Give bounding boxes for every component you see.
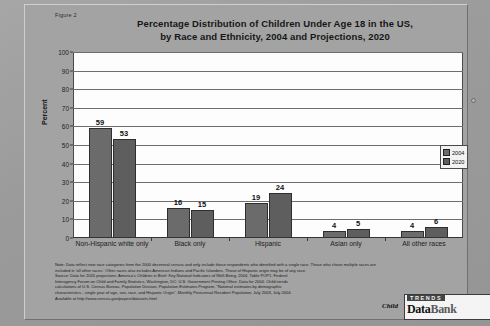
legend-item-2020: 2020: [443, 157, 464, 166]
plot-area-wrapper: 0102030405060708090100 5953161519244546 …: [73, 52, 463, 238]
y-axis-tick-label: 20: [62, 197, 69, 204]
y-axis-tick-label: 40: [62, 160, 69, 167]
y-axis-tick-label: 10: [62, 216, 69, 223]
y-axis-tick-label: 100: [58, 49, 69, 56]
logo-trends-text: TRENDS: [407, 295, 445, 301]
bar-2004: 16: [167, 208, 190, 238]
logo-databank-text: DataBank: [407, 302, 457, 317]
y-axis-tick-label: 80: [62, 86, 69, 93]
bar-groups: 5953161519244546: [73, 52, 463, 238]
y-axis-tick-label: 90: [62, 67, 69, 74]
bar-group: 1615: [151, 52, 229, 238]
bar-2020: 24: [269, 193, 292, 238]
chart-legend: 2004 2020: [440, 145, 468, 169]
x-axis-tick-mark: [307, 238, 308, 241]
y-axis-tick-label: 50: [62, 142, 69, 149]
legend-item-2004: 2004: [443, 148, 464, 157]
chart-title-line-1: Percentage Distribution of Children Unde…: [85, 18, 465, 31]
y-axis-title: Percent: [41, 99, 48, 125]
bar-value-label: 59: [96, 118, 104, 127]
y-axis-tick-label: 30: [62, 179, 69, 186]
bar-value-label: 16: [174, 198, 182, 207]
x-axis-tick-mark: [229, 238, 230, 241]
bar-value-label: 53: [120, 129, 128, 138]
bar-value-label: 4: [410, 221, 414, 230]
x-axis-line: [73, 237, 463, 238]
scanned-page: Figure 2 Percentage Distribution of Chil…: [0, 0, 490, 326]
y-axis-tick-label: 60: [62, 123, 69, 130]
chart-title: Percentage Distribution of Children Unde…: [85, 18, 465, 43]
logo-data-text: Data: [407, 302, 430, 316]
legend-label-2004: 2004: [452, 150, 464, 156]
figure-frame: Figure 2 Percentage Distribution of Chil…: [24, 4, 468, 320]
bar-value-label: 4: [332, 221, 336, 230]
bar-value-label: 24: [276, 183, 284, 192]
bar-2020: 15: [191, 210, 214, 238]
x-axis-tick-mark: [151, 238, 152, 241]
x-axis-label: All other races: [376, 240, 472, 248]
figure-label: Figure 2: [55, 12, 77, 18]
bar-2020: 53: [113, 139, 136, 238]
legend-label-2020: 2020: [452, 159, 464, 165]
logo-bank-text: Bank: [430, 302, 456, 316]
logo-child-text: Child: [382, 302, 398, 310]
bar-group: 1924: [229, 52, 307, 238]
legend-swatch-2020-icon: [443, 158, 450, 165]
bar-value-label: 5: [356, 219, 360, 228]
bar-value-label: 19: [252, 193, 260, 202]
bar-2004: 19: [245, 203, 268, 238]
x-axis-tick-mark: [385, 238, 386, 241]
legend-swatch-2004-icon: [443, 149, 450, 156]
bar-value-label: 15: [198, 200, 206, 209]
bar-2004: 59: [89, 128, 112, 238]
bar-group: 45: [307, 52, 385, 238]
child-trends-databank-logo: Child TRENDS DataBank: [382, 293, 490, 320]
chart-title-line-2: by Race and Ethnicity, 2004 and Projecti…: [85, 31, 465, 44]
bar-group: 5953: [73, 52, 151, 238]
bar-value-label: 6: [434, 217, 438, 226]
y-axis-tick-label: 70: [62, 104, 69, 111]
page-speck: [471, 98, 476, 103]
